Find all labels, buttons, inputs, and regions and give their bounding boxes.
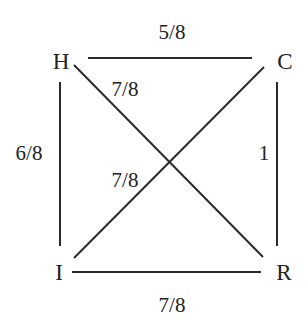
edge-label-h-c: 5/8 <box>159 22 186 43</box>
edge-label-i-r: 7/8 <box>159 295 186 316</box>
edge-label-h-i: 6/8 <box>16 143 43 164</box>
node-i: I <box>55 261 63 284</box>
edge-label-c-r: 1 <box>259 143 270 164</box>
node-c: C <box>277 50 292 73</box>
node-h: H <box>53 50 70 73</box>
node-r: R <box>276 261 291 284</box>
edge-label-c-i: 7/8 <box>112 170 139 191</box>
edge-label-h-r: 7/8 <box>112 79 139 100</box>
